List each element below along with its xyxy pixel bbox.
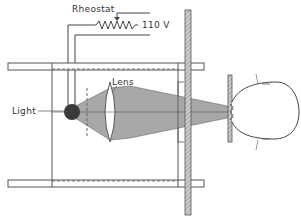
light-beam: [72, 86, 232, 140]
voltage-label: 110 V: [142, 20, 170, 30]
eyepiece-plate: [228, 75, 232, 142]
rheostat-label: Rheostat: [72, 4, 115, 14]
light-label: Light: [12, 106, 36, 116]
light-bulb-icon: [64, 104, 80, 120]
screen-wall: [185, 10, 191, 215]
head-outline: [230, 74, 299, 150]
diagram-canvas: [0, 0, 301, 219]
lens-label: Lens: [112, 77, 134, 87]
rheostat-resistor-icon: [96, 21, 138, 29]
rheostat-wiper-arrow: [117, 13, 150, 19]
